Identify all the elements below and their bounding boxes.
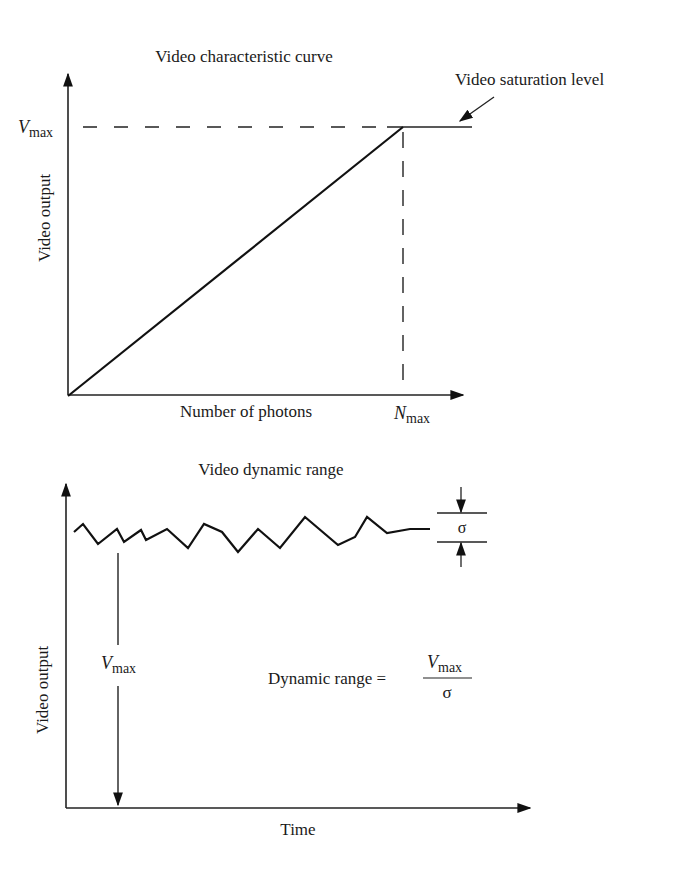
bottom-title: Video dynamic range [198,460,343,479]
sigma-label: σ [458,519,467,536]
top-title: Video characteristic curve [155,47,332,66]
formula-numerator: Vmax [427,652,462,675]
top-diagram: Video characteristic curve Video output … [18,47,604,426]
top-vmax-label: Vmax [18,117,53,140]
nmax-label: Nmax [393,403,430,426]
diagram-canvas: Video characteristic curve Video output … [0,0,675,877]
saturation-pointer-arrow [460,97,494,121]
bottom-y-axis-label: Video output [33,646,52,734]
saturation-label: Video saturation level [455,70,604,89]
top-x-axis-label: Number of photons [180,402,312,421]
bottom-x-axis-label: Time [280,820,315,839]
formula-lhs: Dynamic range = [268,669,386,688]
top-y-axis-label: Video output [35,174,54,262]
noise-signal-trace [74,517,430,552]
bottom-diagram: Video dynamic range Video output Vmax σ … [33,460,530,839]
formula-denominator: σ [442,683,451,702]
characteristic-curve [68,127,403,396]
bottom-vmax-label: Vmax [101,653,136,676]
